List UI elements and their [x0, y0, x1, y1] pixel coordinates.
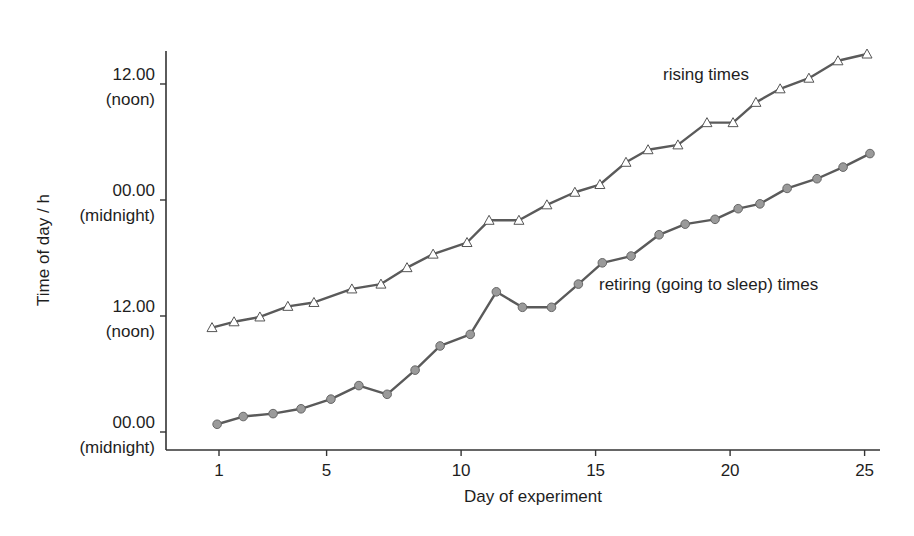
circle-marker [213, 420, 222, 429]
circle-marker [711, 215, 720, 224]
circle-marker [734, 204, 743, 213]
circle-marker [547, 303, 556, 312]
circle-marker [681, 220, 690, 229]
y-tick-sublabel: (midnight) [79, 206, 155, 225]
circle-marker [627, 252, 636, 261]
x-ticks: 1510152025 [214, 450, 874, 480]
circle-marker [269, 409, 278, 418]
x-tick-label: 15 [586, 461, 605, 480]
circle-marker [436, 342, 445, 351]
circle-marker [839, 163, 848, 172]
circle-marker [783, 184, 792, 193]
rising-times-label: rising times [663, 65, 749, 84]
series-layer [207, 49, 874, 429]
y-tick-label: 12.00 [112, 65, 155, 84]
circle-marker [598, 259, 607, 268]
axes: 00.00(midnight)12.00(noon)00.00(midnight… [79, 51, 880, 480]
circle-marker [866, 149, 875, 158]
circle-marker [297, 404, 306, 413]
y-tick-sublabel: (noon) [106, 322, 155, 341]
triangle-marker [621, 157, 631, 166]
circle-marker [813, 174, 822, 183]
x-tick-label: 10 [452, 461, 471, 480]
x-axis-title: Day of experiment [464, 487, 602, 506]
chart-canvas: 00.00(midnight)12.00(noon)00.00(midnight… [0, 0, 914, 536]
circle-marker [383, 390, 392, 399]
x-tick-label: 20 [721, 461, 740, 480]
y-tick-label: 00.00 [112, 181, 155, 200]
circle-marker [466, 330, 475, 339]
y-tick-sublabel: (midnight) [79, 438, 155, 457]
circle-marker [655, 230, 664, 239]
retiring-times-label: retiring (going to sleep) times [599, 275, 818, 294]
circle-marker [355, 381, 364, 390]
y-tick-label: 00.00 [112, 413, 155, 432]
circle-marker [411, 366, 420, 375]
triangle-marker [862, 49, 872, 58]
circle-marker [327, 395, 336, 404]
y-ticks: 00.00(midnight)12.00(noon)00.00(midnight… [79, 65, 166, 457]
y-tick-label: 12.00 [112, 297, 155, 316]
circle-marker [518, 303, 527, 312]
circle-marker [492, 288, 501, 297]
circle-marker [239, 412, 248, 421]
circle-marker [574, 280, 583, 289]
triangle-marker [804, 73, 814, 82]
y-axis-title: Time of day / h [34, 194, 53, 306]
x-tick-label: 1 [214, 461, 223, 480]
x-tick-label: 25 [855, 461, 874, 480]
triangle-marker [751, 97, 761, 106]
circle-marker [756, 200, 765, 209]
x-tick-label: 5 [322, 461, 331, 480]
y-tick-sublabel: (noon) [106, 90, 155, 109]
